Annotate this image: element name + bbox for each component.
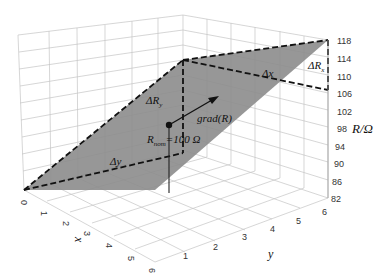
z-tick: 118 <box>337 36 351 46</box>
delta-rx-label: ΔRx <box>307 59 325 74</box>
surface-diagram: ΔRy grad(R) Rnom=100 Ω Δy Δx ΔRx 118 114… <box>0 0 391 276</box>
delta-y-label: Δy <box>109 155 121 167</box>
y-tick: 6 <box>322 207 327 217</box>
x-tick: 2 <box>61 221 71 226</box>
z-tick: 110 <box>337 72 351 82</box>
delta-x-label: Δx <box>261 67 273 79</box>
y-axis-label: y <box>267 247 274 261</box>
nominal-point <box>166 122 172 128</box>
z-axis: 118 114 110 106 102 98 94 90 86 82 R/Ω <box>328 36 373 204</box>
x-axis: 0 1 2 3 4 5 6 x <box>19 200 157 273</box>
z-tick: 86 <box>332 177 342 187</box>
z-tick: 106 <box>337 89 352 99</box>
resistance-surface <box>24 40 328 190</box>
x-tick: 3 <box>82 231 92 236</box>
z-axis-label: R/Ω <box>351 121 373 136</box>
y-tick: 1 <box>183 251 188 261</box>
y-tick: 3 <box>242 232 247 242</box>
z-tick: 102 <box>337 107 352 117</box>
x-tick: 5 <box>126 256 136 261</box>
y-tick: 5 <box>296 216 301 226</box>
x-tick: 0 <box>19 200 29 205</box>
gradient-label: grad(R) <box>197 112 232 125</box>
z-tick: 90 <box>334 159 344 169</box>
y-tick: 2 <box>213 242 218 252</box>
z-tick: 82 <box>331 194 341 204</box>
x-tick: 1 <box>39 211 49 216</box>
plot-canvas: ΔRy grad(R) Rnom=100 Ω Δy Δx ΔRx 118 114… <box>0 0 391 276</box>
x-tick: 6 <box>147 268 157 273</box>
y-axis: 1 2 3 4 5 6 y <box>183 207 327 261</box>
z-tick: 98 <box>337 124 347 134</box>
x-axis-label: x <box>72 236 86 243</box>
y-tick: 4 <box>270 224 275 234</box>
z-tick: 114 <box>337 54 351 64</box>
z-tick: 94 <box>335 142 345 152</box>
x-tick: 4 <box>104 243 114 248</box>
